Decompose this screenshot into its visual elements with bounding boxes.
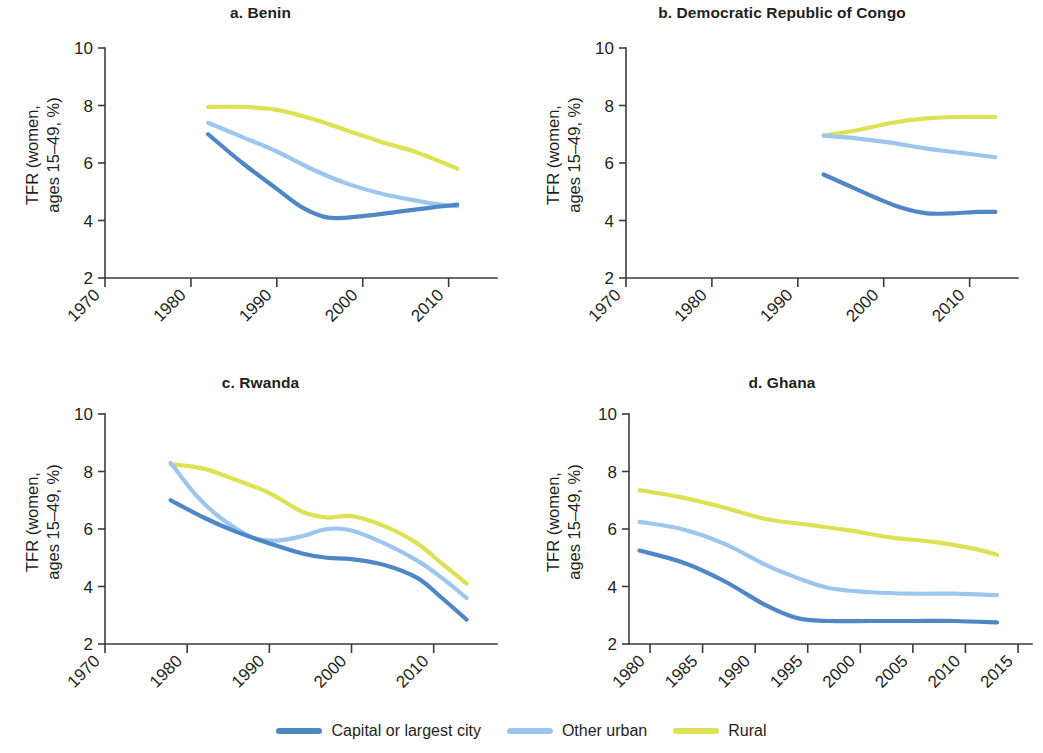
svg-text:2: 2 (84, 269, 93, 288)
svg-text:TFR (women,: TFR (women, (544, 472, 562, 572)
svg-text:8: 8 (84, 97, 93, 116)
svg-text:2: 2 (84, 635, 93, 654)
svg-text:4: 4 (84, 212, 93, 231)
svg-text:4: 4 (605, 212, 614, 231)
panel-b: b. Democratic Republic of Congo 24681019… (521, 0, 1043, 376)
legend-label-capital: Capital or largest city (331, 722, 480, 740)
svg-text:2000: 2000 (819, 651, 859, 691)
svg-text:2010: 2010 (928, 285, 968, 325)
svg-text:6: 6 (608, 520, 617, 539)
svg-text:TFR (women,: TFR (women, (23, 472, 41, 572)
svg-text:10: 10 (598, 405, 617, 424)
svg-text:1985: 1985 (661, 651, 701, 691)
svg-text:ages 15–49, %): ages 15–49, %) (44, 464, 62, 580)
legend-item-capital: Capital or largest city (276, 722, 480, 740)
svg-text:ages 15–49, %): ages 15–49, %) (565, 464, 583, 580)
svg-text:6: 6 (84, 520, 93, 539)
svg-text:2000: 2000 (842, 285, 882, 325)
svg-text:1990: 1990 (756, 285, 796, 325)
svg-text:ages 15–49, %): ages 15–49, %) (565, 97, 583, 213)
svg-text:1980: 1980 (671, 285, 711, 325)
panel-a-plot: 24681019701980199020002010TFR (women,age… (0, 0, 521, 376)
svg-text:TFR (women,: TFR (women, (544, 105, 562, 205)
svg-text:2005: 2005 (872, 651, 912, 691)
panel-d: d. Ghana 2468101980198519901995200020052… (521, 370, 1043, 710)
legend-swatch-rural (673, 728, 719, 734)
panel-b-plot: 24681019701980199020002010TFR (women,age… (521, 0, 1043, 376)
legend-item-other-urban: Other urban (507, 722, 647, 740)
svg-text:8: 8 (608, 463, 617, 482)
svg-text:1980: 1980 (146, 651, 186, 691)
legend-swatch-other-urban (507, 728, 553, 734)
legend-swatch-capital (276, 728, 322, 734)
legend-label-other-urban: Other urban (562, 722, 647, 740)
svg-text:2015: 2015 (977, 651, 1017, 691)
legend-item-rural: Rural (673, 722, 766, 740)
svg-text:10: 10 (74, 39, 93, 58)
figure-root: a. Benin 24681019701980199020002010TFR (… (0, 0, 1043, 753)
svg-text:6: 6 (605, 154, 614, 173)
svg-text:2000: 2000 (310, 651, 350, 691)
svg-text:6: 6 (84, 154, 93, 173)
svg-text:1980: 1980 (609, 651, 649, 691)
svg-text:10: 10 (74, 405, 93, 424)
svg-text:1970: 1970 (64, 651, 104, 691)
panel-a: a. Benin 24681019701980199020002010TFR (… (0, 0, 521, 376)
chart-legend: Capital or largest city Other urban Rura… (0, 722, 1043, 740)
svg-text:2: 2 (605, 269, 614, 288)
panel-c: c. Rwanda 24681019701980199020002010TFR … (0, 370, 521, 710)
svg-text:2010: 2010 (407, 285, 447, 325)
legend-label-rural: Rural (728, 722, 766, 740)
svg-text:8: 8 (605, 97, 614, 116)
svg-text:8: 8 (84, 463, 93, 482)
svg-text:2: 2 (608, 635, 617, 654)
svg-text:TFR (women,: TFR (women, (23, 105, 41, 205)
svg-text:1990: 1990 (235, 285, 275, 325)
svg-text:ages 15–49, %): ages 15–49, %) (44, 97, 62, 213)
svg-text:1970: 1970 (585, 285, 625, 325)
svg-text:1990: 1990 (714, 651, 754, 691)
panel-c-plot: 24681019701980199020002010TFR (women,age… (0, 370, 521, 710)
svg-text:2010: 2010 (924, 651, 964, 691)
svg-text:4: 4 (84, 578, 93, 597)
svg-text:2000: 2000 (321, 285, 361, 325)
svg-text:2010: 2010 (392, 651, 432, 691)
svg-text:10: 10 (595, 39, 614, 58)
panel-d-plot: 24681019801985199019952000200520102015TF… (521, 370, 1043, 710)
svg-text:1995: 1995 (766, 651, 806, 691)
svg-text:1980: 1980 (150, 285, 190, 325)
svg-text:1970: 1970 (64, 285, 104, 325)
svg-text:4: 4 (608, 578, 617, 597)
svg-text:1990: 1990 (228, 651, 268, 691)
